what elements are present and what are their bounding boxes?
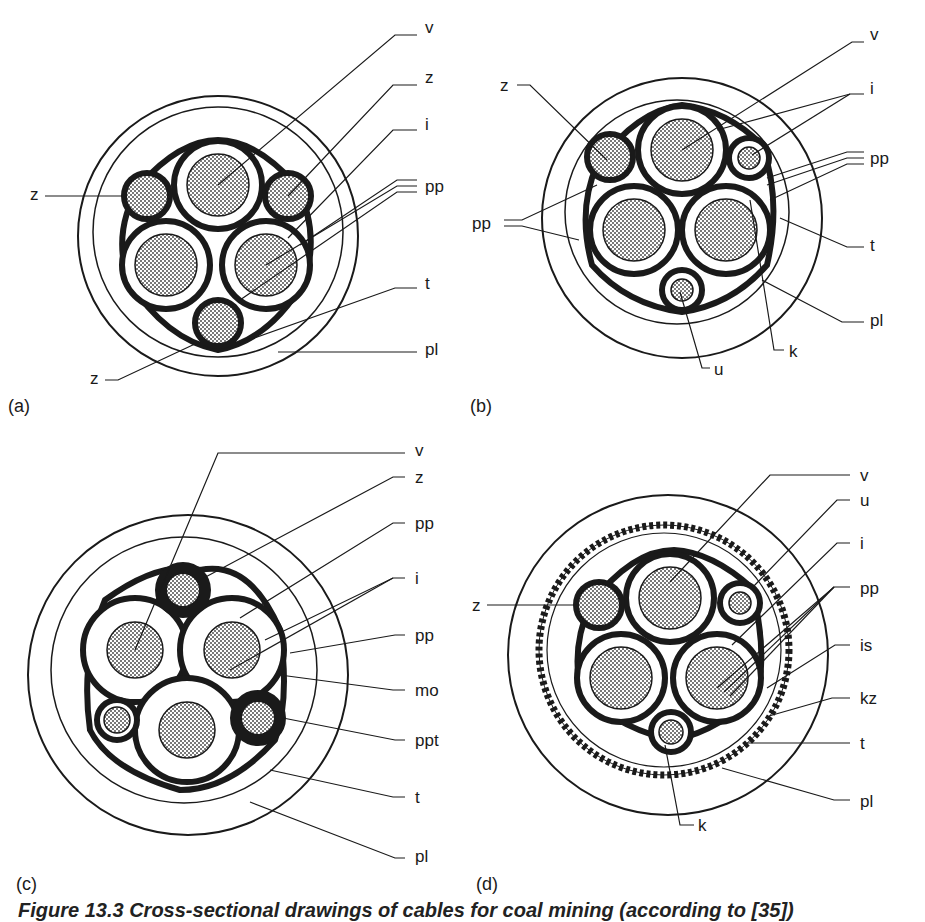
label-i: i <box>870 80 874 97</box>
label-u: u <box>714 361 723 378</box>
label-z-bottom: z <box>90 370 99 387</box>
panel-a: v z i pp t pl z z (a) <box>0 0 462 440</box>
label-pp: pp <box>415 515 434 532</box>
label-t: t <box>425 275 430 292</box>
label-i: i <box>860 535 864 552</box>
label-pl: pl <box>415 848 428 865</box>
cable-cross-section-d <box>462 440 924 880</box>
label-t: t <box>415 789 420 806</box>
label-z-left: z <box>30 186 39 203</box>
panel-d: v u i pp is kz t pl z k (d) <box>462 440 924 880</box>
label-z: z <box>425 69 434 86</box>
label-v: v <box>415 442 424 459</box>
label-z: z <box>472 597 481 614</box>
label-pp: pp <box>425 178 444 195</box>
panel-c: v z pp i pp mo ppt t pl (c) <box>0 440 462 880</box>
label-z: z <box>500 77 509 94</box>
label-v: v <box>425 19 434 36</box>
label-v: v <box>860 467 869 484</box>
label-pp-2: pp <box>415 627 434 644</box>
panel-id-b: (b) <box>470 396 492 417</box>
panel-b: v i pp t pl k u z pp (b) <box>462 0 924 440</box>
label-k: k <box>789 343 798 360</box>
label-v: v <box>870 26 879 43</box>
label-is: is <box>860 637 872 654</box>
label-i: i <box>415 570 419 587</box>
label-t: t <box>860 735 865 752</box>
label-i: i <box>425 116 429 133</box>
label-k: k <box>698 817 707 834</box>
panel-id-c: (c) <box>16 874 37 895</box>
label-z: z <box>415 469 424 486</box>
cable-cross-section-a <box>0 0 462 440</box>
panel-id-d: (d) <box>476 874 498 895</box>
panel-id-a: (a) <box>8 396 30 417</box>
figure-caption: Figure 13.3 Cross-sectional drawings of … <box>18 899 794 922</box>
label-pl: pl <box>425 341 438 358</box>
label-ppt: ppt <box>415 732 439 749</box>
label-pp: pp <box>860 580 879 597</box>
label-pl: pl <box>860 793 873 810</box>
label-pp-left: pp <box>472 215 491 232</box>
label-mo: mo <box>415 682 439 699</box>
cable-cross-section-c <box>0 440 462 880</box>
cable-cross-section-b <box>462 0 924 440</box>
label-kz: kz <box>860 690 877 707</box>
label-u: u <box>860 492 869 509</box>
label-t: t <box>870 237 875 254</box>
label-pl: pl <box>870 312 883 329</box>
label-pp: pp <box>870 150 889 167</box>
